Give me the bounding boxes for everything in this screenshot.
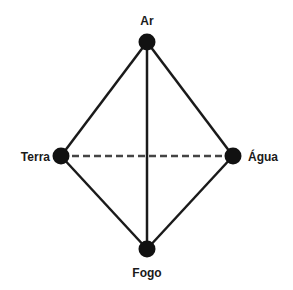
label-terra: Terra bbox=[21, 150, 50, 164]
edge-ar-terra bbox=[61, 42, 147, 156]
node-fogo bbox=[139, 241, 156, 258]
node-ar bbox=[139, 34, 156, 51]
node-agua bbox=[225, 148, 242, 165]
edge-terra-fogo bbox=[61, 156, 147, 249]
edge-ar-agua bbox=[147, 42, 233, 156]
label-fogo: Fogo bbox=[132, 266, 161, 280]
node-terra bbox=[53, 148, 70, 165]
label-agua: Água bbox=[248, 149, 278, 164]
elements-diagram: Ar Terra Água Fogo bbox=[0, 0, 293, 290]
label-ar: Ar bbox=[140, 14, 154, 28]
edges bbox=[61, 42, 233, 249]
edge-agua-fogo bbox=[147, 156, 233, 249]
labels: Ar Terra Água Fogo bbox=[21, 14, 278, 280]
